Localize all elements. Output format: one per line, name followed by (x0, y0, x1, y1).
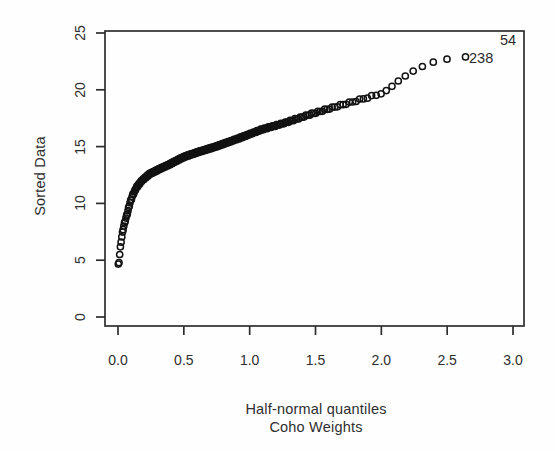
x-tick-label: 0.5 (174, 353, 193, 367)
halfnormal-qq-plot-figure: Sorted Data Half-normal quantiles Coho W… (0, 0, 555, 451)
data-point (395, 78, 401, 84)
x-tick-label: 0.0 (108, 353, 127, 367)
plot-frame (105, 31, 524, 326)
outlier-label-54: 54 (500, 33, 516, 48)
y-tick-label: 20 (73, 82, 87, 98)
data-point (117, 251, 123, 257)
y-tick-label: 15 (73, 139, 87, 155)
data-point (430, 59, 436, 65)
data-point (402, 73, 408, 79)
x-axis-subtitle: Coho Weights (269, 420, 362, 435)
outlier-label-238: 238 (469, 51, 493, 66)
x-axis-title: Half-normal quantiles (245, 402, 386, 417)
data-point (419, 63, 425, 69)
y-axis-title: Sorted Data (33, 136, 48, 216)
data-point (410, 68, 416, 74)
y-tick-label: 25 (73, 25, 87, 41)
y-tick-label: 10 (73, 196, 87, 212)
x-tick-label: 2.5 (437, 353, 456, 367)
data-point (462, 54, 468, 60)
x-tick-label: 3.0 (503, 353, 522, 367)
x-tick-label: 2.0 (372, 353, 391, 367)
y-tick-label: 0 (73, 313, 87, 321)
y-tick-label: 5 (73, 256, 87, 264)
data-point (389, 83, 395, 89)
data-point (383, 88, 389, 94)
plot-canvas (0, 0, 555, 451)
x-tick-label: 1.5 (306, 353, 325, 367)
data-point (444, 56, 450, 62)
x-tick-label: 1.0 (240, 353, 259, 367)
